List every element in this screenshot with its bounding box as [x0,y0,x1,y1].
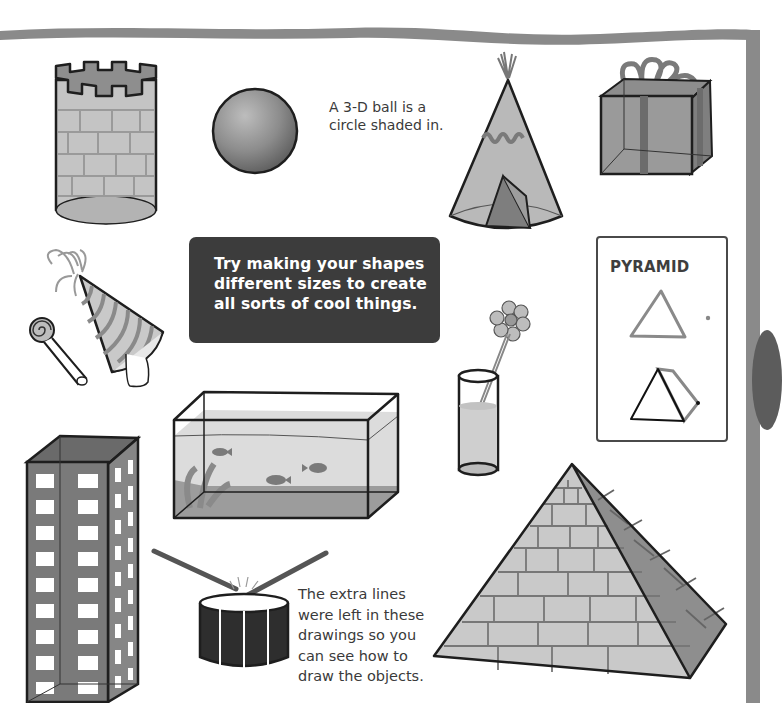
note-line: draw the objects. [298,666,424,687]
note-line: were left in these [298,605,424,626]
party-blower-illustration [28,316,92,396]
ball-caption-line: circle shaded in. [329,116,443,134]
tip-line: Try making your shapes [214,254,440,274]
tepee-illustration [446,46,566,232]
ball-caption-line: A 3-D ball is a [329,98,443,116]
ball-illustration [210,84,300,178]
tip-line: different sizes to create [214,274,440,294]
note-line: drawings so you [298,625,424,646]
pyramid-card-title: PYRAMID [610,258,689,276]
pyramid-card: PYRAMID [596,236,728,442]
pyramid-step-icon [628,366,708,426]
castle-tower-illustration [50,60,165,230]
fish-tank-illustration [168,380,402,520]
triangle-step-icon [628,288,718,343]
note-line: can see how to [298,646,424,667]
tip-line: all sorts of cool things. [214,294,440,314]
flower-in-glass-illustration [455,296,535,480]
page-edge-tab [752,330,782,430]
stone-pyramid-illustration [428,460,728,682]
skyscraper-illustration [24,432,144,703]
gift-box-illustration [596,52,716,186]
drawing-note: The extra lines were left in these drawi… [298,584,424,687]
note-line: The extra lines [298,584,424,605]
ball-caption: A 3-D ball is a circle shaded in. [329,98,443,134]
tip-box: Try making your shapes different sizes t… [189,237,440,343]
